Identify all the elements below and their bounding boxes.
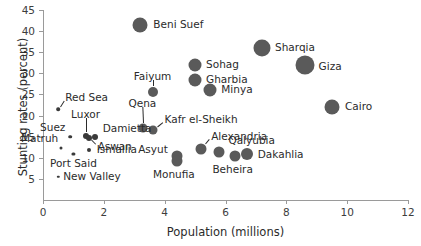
data-point-label: Asyut <box>138 144 168 155</box>
x-tick-label: 6 <box>222 207 229 218</box>
data-point[interactable] <box>189 58 202 71</box>
y-tick-mark <box>39 116 43 117</box>
data-point-label: Red Sea <box>65 92 108 103</box>
data-point-label: Cairo <box>345 101 372 112</box>
data-point[interactable] <box>69 135 73 139</box>
data-point-label: Damietta <box>103 123 152 134</box>
data-point[interactable] <box>196 144 207 155</box>
data-point-label: Sharqia <box>275 42 315 53</box>
label-leader-line <box>142 107 144 123</box>
x-tick-label: 10 <box>340 207 353 218</box>
y-tick-mark <box>39 94 43 95</box>
data-point[interactable] <box>60 147 63 150</box>
x-tick-label: 2 <box>100 207 107 218</box>
data-point-label: Beni Suef <box>153 19 203 30</box>
data-point-label: Kafr el-Sheikh <box>165 114 238 125</box>
data-point-label: Giza <box>319 61 342 72</box>
x-tick-label: 8 <box>283 207 290 218</box>
data-point[interactable] <box>57 176 59 178</box>
data-point-label: Dakahlia <box>258 149 304 160</box>
data-point[interactable] <box>92 134 98 140</box>
label-leader-line <box>60 100 65 107</box>
x-axis-title: Population (millions) <box>43 225 408 239</box>
data-point[interactable] <box>324 100 339 115</box>
label-leader-line <box>205 139 210 144</box>
y-tick-mark <box>39 179 43 180</box>
y-axis-line <box>43 10 44 200</box>
label-leader-line <box>92 140 97 145</box>
data-point[interactable] <box>254 40 271 57</box>
data-point[interactable] <box>72 152 75 155</box>
x-tick-mark <box>43 200 44 204</box>
y-tick-mark <box>39 73 43 74</box>
x-tick-label: 12 <box>401 207 414 218</box>
data-point[interactable] <box>204 84 217 97</box>
data-point-label: Qalyubia <box>228 135 275 146</box>
label-leader-line <box>153 80 154 86</box>
scatter-plot: 024681012 51015202530354045 Beni SuefSha… <box>0 0 421 246</box>
data-point[interactable] <box>56 107 60 111</box>
data-point-label: Beheira <box>212 164 252 175</box>
x-tick-mark <box>104 200 105 204</box>
data-point-label: Suez <box>40 122 65 133</box>
data-point-label: Port Said <box>50 158 97 169</box>
y-tick-label: 45 <box>11 5 35 16</box>
x-tick-mark <box>286 200 287 204</box>
data-point[interactable] <box>229 150 240 161</box>
data-point[interactable] <box>87 148 91 152</box>
y-tick-mark <box>39 158 43 159</box>
data-point[interactable] <box>295 55 314 74</box>
x-tick-mark <box>165 200 166 204</box>
x-tick-mark <box>226 200 227 204</box>
data-point[interactable] <box>133 17 148 32</box>
y-axis-title: Stunting rates (percent) <box>16 22 30 192</box>
y-tick-mark <box>39 10 43 11</box>
x-tick-mark <box>408 200 409 204</box>
data-point[interactable] <box>214 147 225 158</box>
data-point[interactable] <box>241 148 253 160</box>
x-tick-mark <box>347 200 348 204</box>
data-point-label: Minya <box>221 84 252 95</box>
x-tick-label: 0 <box>40 207 47 218</box>
x-tick-label: 4 <box>161 207 168 218</box>
data-point[interactable] <box>171 155 182 166</box>
y-tick-mark <box>39 31 43 32</box>
data-point-label: Monufia <box>153 169 195 180</box>
data-point[interactable] <box>148 87 158 97</box>
data-point-label: New Valley <box>63 171 121 182</box>
label-leader-line <box>86 118 87 132</box>
data-point[interactable] <box>189 73 202 86</box>
data-point-label: Ismailia <box>97 144 137 155</box>
label-leader-line <box>157 122 163 127</box>
data-point-label: Sohag <box>206 59 239 70</box>
y-tick-mark <box>39 52 43 53</box>
